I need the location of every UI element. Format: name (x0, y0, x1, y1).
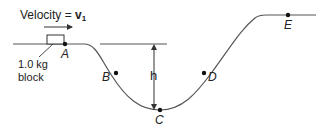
block-word-label: block (18, 71, 44, 83)
track-curve (13, 15, 316, 110)
point-a-dot (63, 42, 67, 46)
velocity-label: Velocity = v1 (20, 8, 87, 23)
block-pointer-line (39, 44, 53, 57)
block (47, 35, 64, 44)
point-e-dot (286, 13, 290, 17)
point-e-label: E (284, 18, 293, 32)
point-c-label: C (155, 113, 164, 127)
point-c-dot (158, 108, 162, 112)
block-mass-label: 1.0 kg (18, 58, 48, 70)
point-a-label: A (60, 47, 69, 61)
point-b-dot (114, 71, 118, 75)
point-b-label: B (102, 70, 110, 84)
point-d-dot (202, 71, 206, 75)
point-d-label: D (208, 70, 217, 84)
height-label: h (150, 68, 157, 83)
roller-coaster-diagram: h Velocity = v1 1.0 kg block A B C D E (0, 0, 328, 127)
